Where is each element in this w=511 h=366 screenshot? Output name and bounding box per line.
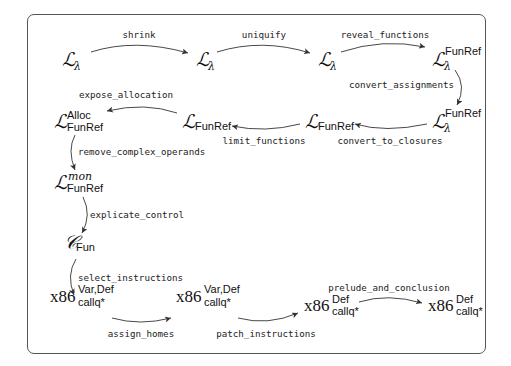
svg-text:FunRef: FunRef [445,107,482,119]
svg-text:λ: λ [443,60,451,73]
arrow-icon [217,45,310,53]
svg-text:FunRef: FunRef [445,45,482,57]
node-n7: ℒ FunRef [182,110,232,132]
svg-text:callq*: callq* [332,305,360,317]
arrow-icon [82,197,87,233]
edge-limit-functions: limit_functions [223,124,306,146]
svg-text:Alloc: Alloc [67,109,91,121]
svg-text:reveal_functions: reveal_functions [341,29,430,40]
svg-text:convert_to_closures: convert_to_closures [337,135,442,146]
svg-text:expose_allocation: expose_allocation [79,89,173,100]
node-n12: x86 callq* Var,Def [176,283,241,308]
node-n11: x86 callq* Var,Def [50,283,115,308]
edge-remove-complex-operands: remove_complex_operands [71,135,205,170]
edge-convert-assignments: convert_assignments [349,70,462,105]
svg-text:λ: λ [443,122,451,135]
svg-text:λ: λ [207,60,215,73]
svg-text:uniquify: uniquify [242,29,287,40]
svg-text:shrink: shrink [122,29,156,40]
svg-text:callq*: callq* [204,296,232,308]
svg-text:λ: λ [73,60,81,73]
node-n9: ℒ FunRef mon [54,170,104,194]
svg-text:convert_assignments: convert_assignments [349,79,454,90]
node-n13: x86 callq* Def [304,293,360,317]
edge-uniquify: uniquify [217,29,310,53]
arrow-icon [112,318,171,322]
arrow-icon [238,313,298,321]
edge-shrink: shrink [91,29,188,53]
node-n6: ℒ FunRef [305,110,355,132]
node-n2: ℒ λ [196,48,215,73]
pass-diagram: ℒ λ ℒ λ ℒ λ ℒ λ FunRef ℒ λ FunRef ℒ FunR… [0,0,511,366]
svg-text:limit_functions: limit_functions [223,135,306,146]
node-n8: ℒ FunRef Alloc [54,109,104,133]
svg-text:x86: x86 [304,296,330,315]
svg-text:remove_complex_operands: remove_complex_operands [78,146,205,157]
node-n5: ℒ λ FunRef [432,107,482,135]
node-n14: x86 callq* Def [428,293,484,317]
svg-text:x86: x86 [428,296,454,315]
svg-text:select_instructions: select_instructions [78,272,183,283]
arrow-icon [91,45,188,53]
node-n10: 𝒞 Fun [64,231,95,253]
arrow-icon [232,124,300,129]
svg-text:FunRef: FunRef [67,121,104,133]
svg-text:FunRef: FunRef [67,182,104,194]
edge-patch-instructions: patch_instructions [216,313,316,339]
edge-explicate-control: explicate_control [82,197,184,233]
edge-expose-allocation: expose_allocation [79,89,177,113]
svg-text:Fun: Fun [76,241,95,253]
arrow-icon [355,124,427,129]
svg-text:mon: mon [68,170,92,183]
arrow-icon [359,298,422,303]
svg-text:FunRef: FunRef [318,120,355,132]
svg-text:x86: x86 [50,287,76,306]
svg-text:patch_instructions: patch_instructions [216,328,316,339]
svg-text:Def: Def [332,293,350,305]
svg-text:λ: λ [329,60,337,73]
svg-text:Var,Def: Var,Def [78,283,115,295]
svg-text:callq*: callq* [78,296,106,308]
svg-text:assign_homes: assign_homes [108,328,174,339]
edge-reveal-functions: reveal_functions [341,29,430,52]
node-n3: ℒ λ [318,48,337,73]
arrow-icon [71,135,75,170]
node-n4: ℒ λ FunRef [432,45,482,73]
edge-assign-homes: assign_homes [108,318,174,339]
svg-text:Var,Def: Var,Def [204,283,241,295]
arrow-icon [341,43,425,52]
svg-text:x86: x86 [176,287,202,306]
svg-text:prelude_and_conclusion: prelude_and_conclusion [328,282,450,293]
node-n1: ℒ λ [62,48,81,73]
svg-text:FunRef: FunRef [195,120,232,132]
arrow-icon [107,107,177,113]
arrow-icon [455,70,462,105]
svg-text:callq*: callq* [456,305,484,317]
svg-text:Def: Def [456,293,474,305]
svg-text:explicate_control: explicate_control [90,209,184,220]
